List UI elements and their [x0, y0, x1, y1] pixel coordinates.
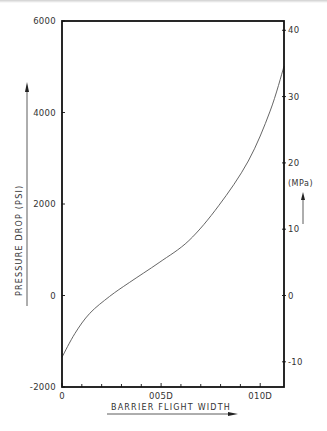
- x-tick-label: 010D: [248, 391, 272, 401]
- x-tick-label: 0: [59, 391, 65, 401]
- data-curve: [62, 66, 284, 357]
- x-axis-title: BARRIER FLIGHT WIDTH: [111, 403, 231, 412]
- arrow-up-icon: [25, 82, 29, 92]
- y2-axis-title: (MPa): [288, 179, 313, 188]
- y2-axis-ticks: 403020100-10: [282, 25, 303, 367]
- y-tick-label: 6000: [33, 16, 56, 26]
- y-axis-title-group: PRESSURE DROP (PSI): [15, 82, 29, 306]
- x-tick-label: 005D: [149, 391, 173, 401]
- y-tick-label: 2000: [33, 199, 56, 209]
- y-tick-label: 4000: [33, 108, 56, 118]
- y2-tick-label: 0: [288, 291, 294, 301]
- x-axis-title-group: BARRIER FLIGHT WIDTH: [107, 403, 238, 416]
- y2-tick-label: 30: [288, 92, 299, 102]
- arrow-right-icon: [228, 412, 238, 416]
- pressure-drop-chart: 0005D010D 6000400020000-2000 403020100-1…: [0, 0, 327, 431]
- y-tick-label: 0: [50, 291, 56, 301]
- axes: [62, 21, 284, 387]
- y2-tick-label: 40: [288, 25, 299, 35]
- y-axis-ticks: 6000400020000-2000: [30, 16, 65, 392]
- pressure-drop-line: [62, 66, 284, 357]
- y2-tick-label: 10: [288, 224, 299, 234]
- y2-tick-label: -10: [288, 357, 303, 367]
- x-axis-ticks: 0005D010D: [59, 383, 272, 401]
- y2-tick-label: 20: [288, 158, 299, 168]
- y-tick-label: -2000: [30, 382, 56, 392]
- plot-frame: [62, 21, 284, 387]
- arrow-up-icon: [301, 192, 305, 200]
- y-axis-title: PRESSURE DROP (PSI): [15, 185, 24, 296]
- y2-axis-title-group: (MPa): [288, 179, 313, 224]
